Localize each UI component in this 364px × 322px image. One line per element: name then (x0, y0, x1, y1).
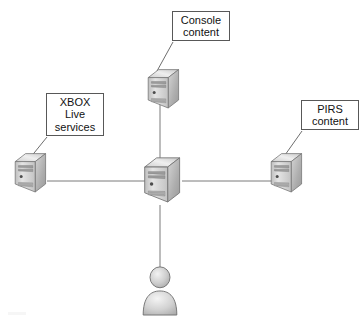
leader-line-console-content (157, 42, 173, 71)
label-xbox-live-services: XBOX Live services (46, 93, 104, 136)
node-user-actor[interactable] (143, 267, 177, 315)
label-console-content: Console content (172, 11, 230, 41)
label-pirs-content: PIRS content (301, 100, 359, 130)
node-server-right[interactable] (271, 154, 301, 192)
diagram-canvas: Console content XBOX Live services PIRS … (0, 0, 364, 322)
leader-line-pirs-content (285, 131, 302, 155)
node-server-top[interactable] (148, 70, 178, 108)
node-server-left[interactable] (15, 154, 45, 192)
node-server-center[interactable] (145, 158, 180, 202)
scan-artifact (8, 312, 26, 315)
network-diagram (0, 0, 364, 322)
